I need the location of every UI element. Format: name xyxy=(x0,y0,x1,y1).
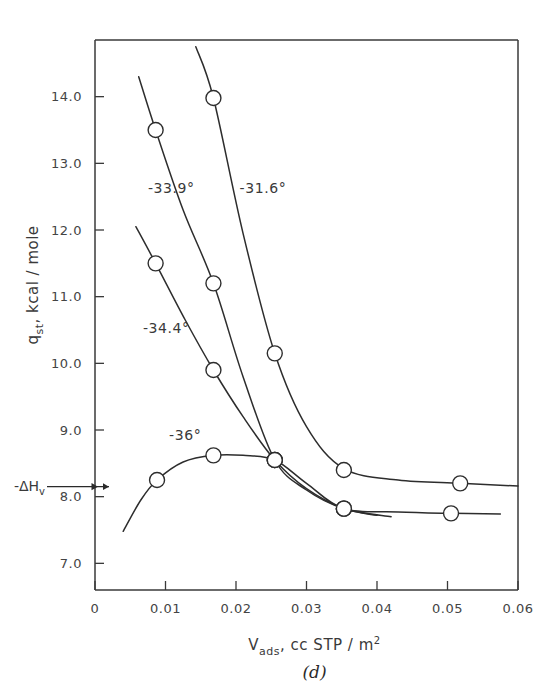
data-point-marker xyxy=(148,256,163,271)
data-curves xyxy=(123,47,518,532)
curve-label-36: -36° xyxy=(169,427,201,443)
x-tick-label: 0.04 xyxy=(362,601,393,616)
curve-label-344: -34.4° xyxy=(143,320,190,336)
data-point-marker xyxy=(206,276,221,291)
data-point-marker xyxy=(453,476,468,491)
curve-316 xyxy=(196,47,518,486)
x-axis-title: Vads, cc STP / m2 xyxy=(248,635,380,658)
y-tick-label: 8.0 xyxy=(60,489,82,504)
y-axis-title-main: q xyxy=(24,335,42,345)
curve-339 xyxy=(139,77,391,517)
data-point-marker xyxy=(267,453,282,468)
data-point-marker xyxy=(206,91,221,106)
data-point-marker xyxy=(336,463,351,478)
x-tick-label: 0.02 xyxy=(221,601,252,616)
data-point-marker xyxy=(267,346,282,361)
y-tick-label: 10.0 xyxy=(51,356,82,371)
x-tick-label: 0.03 xyxy=(291,601,322,616)
figure-panel: 14.013.012.011.010.09.08.07.000.010.020.… xyxy=(0,0,544,699)
y-axis-title-rest: , kcal / mole xyxy=(24,225,42,323)
data-point-marker xyxy=(150,473,165,488)
data-point-marker xyxy=(148,123,163,138)
panel-label: (d) xyxy=(302,662,326,682)
data-point-marker xyxy=(206,448,221,463)
data-markers xyxy=(148,91,468,521)
x-tick-label: 0.06 xyxy=(503,601,534,616)
y-tick-label: 14.0 xyxy=(51,89,82,104)
y-tick-label: 13.0 xyxy=(51,156,82,171)
y-axis-title: qst, kcal / mole xyxy=(24,225,46,344)
y-axis-title-subscript: st xyxy=(33,323,46,334)
curve-label-316: -31.6° xyxy=(240,180,287,196)
data-point-marker xyxy=(444,506,459,521)
data-point-marker xyxy=(206,363,221,378)
x-axis-title-main: V xyxy=(248,636,259,654)
y-tick-label: 7.0 xyxy=(60,556,82,571)
x-axis-title-rest: , cc STP / m xyxy=(280,636,374,654)
curve-label-339: -33.9° xyxy=(148,180,195,196)
y-tick-label: 9.0 xyxy=(60,423,82,438)
x-tick-label: 0 xyxy=(91,601,100,616)
delta-hv-subscript: v xyxy=(39,486,45,497)
y-tick-label: 11.0 xyxy=(51,289,82,304)
delta-hv-arrowhead xyxy=(103,483,109,490)
x-axis-title-superscript: 2 xyxy=(374,635,381,646)
delta-hv-annotation-label: -ΔHv xyxy=(14,478,45,497)
y-tick-label: 12.0 xyxy=(51,223,82,238)
chart-text-labels: 14.013.012.011.010.09.08.07.000.010.020.… xyxy=(14,89,534,682)
x-axis-title-subscript: ads xyxy=(259,645,280,658)
x-tick-label: 0.01 xyxy=(150,601,181,616)
x-tick-label: 0.05 xyxy=(432,601,463,616)
data-point-marker xyxy=(336,501,351,516)
chart-svg: 14.013.012.011.010.09.08.07.000.010.020.… xyxy=(0,0,544,699)
